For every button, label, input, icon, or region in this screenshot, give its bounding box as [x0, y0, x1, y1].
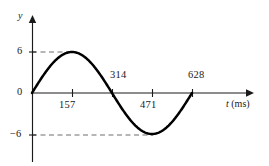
x-tick-label-471: 471	[140, 100, 156, 111]
x-axis-arrowhead	[246, 89, 254, 97]
y-tick-label-6: 6	[17, 46, 22, 57]
y-axis-label: y	[18, 11, 22, 21]
x-axis-unit: (ms)	[231, 98, 249, 109]
x-tick-label-314: 314	[110, 70, 126, 81]
y-axis-arrowhead	[29, 15, 36, 23]
x-tick-label-157: 157	[59, 100, 75, 111]
x-tick-label-628: 628	[188, 70, 204, 81]
x-axis-label: t (ms)	[226, 99, 250, 109]
plot-canvas	[0, 0, 269, 166]
sine-waveform-figure: y 6 0 −6 157 314 471 628 t (ms)	[0, 0, 269, 166]
y-tick-label-negative-6: −6	[10, 129, 21, 140]
y-tick-label-0: 0	[17, 87, 22, 98]
